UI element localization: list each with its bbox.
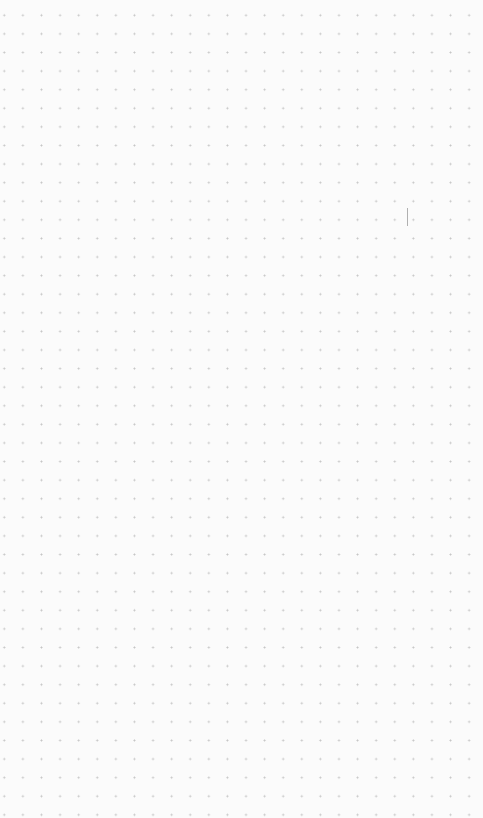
- text-cursor-icon: [407, 208, 408, 226]
- dot-grid-canvas[interactable]: [0, 0, 483, 818]
